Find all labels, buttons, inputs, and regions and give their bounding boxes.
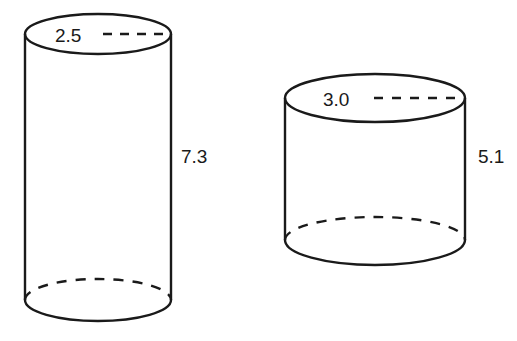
- tall-cylinder-bottom-back: [25, 279, 171, 300]
- tall-cylinder-height-label: 7.3: [181, 146, 207, 167]
- tall-cylinder-radius-label: 2.5: [55, 25, 81, 46]
- short-cylinder-bottom-front: [285, 240, 465, 265]
- tall-cylinder-top: [25, 14, 171, 54]
- cylinders-diagram: 2.5 7.3 3.0 5.1: [0, 0, 517, 341]
- short-cylinder-bottom-back: [285, 217, 465, 240]
- tall-cylinder-bottom-front: [25, 300, 171, 321]
- short-cylinder: [285, 74, 465, 265]
- tall-cylinder: [25, 14, 171, 321]
- short-cylinder-height-label: 5.1: [478, 146, 504, 167]
- short-cylinder-radius-label: 3.0: [323, 89, 349, 110]
